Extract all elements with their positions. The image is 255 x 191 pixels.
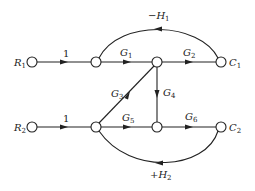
label-r1: R1 (13, 57, 26, 70)
label-c2: C2 (229, 122, 241, 135)
label-g5: G5 (122, 112, 134, 125)
label-h2: +H2 (150, 169, 172, 182)
label-r2: R2 (13, 122, 26, 135)
edge-g6 (162, 125, 216, 130)
label-gain-1-bottom: 1 (63, 113, 69, 124)
edge-g5 (101, 125, 152, 130)
edge-g4 (155, 67, 160, 122)
label-h1: −H1 (148, 10, 170, 23)
signal-flow-graph: R1 C1 R2 C2 1 1 G1 G2 G3 G4 G5 G6 −H1 +H… (0, 0, 255, 191)
edge-g1 (101, 60, 152, 65)
node-r1 (27, 57, 37, 67)
label-gain-1-top: 1 (63, 48, 69, 59)
label-g1: G1 (120, 47, 132, 60)
node-c1 (216, 57, 226, 67)
edge-r1-n2 (37, 60, 91, 65)
node-r2 (27, 122, 37, 132)
edge-h1-feedback (99, 27, 218, 59)
label-g3: G3 (111, 88, 123, 101)
node-c2 (216, 122, 226, 132)
label-c1: C1 (229, 57, 241, 70)
edge-h2-feedback (99, 131, 218, 166)
label-g6: G6 (185, 111, 198, 124)
label-g4: G4 (163, 87, 176, 100)
node-2 (91, 57, 101, 67)
edge-g2 (162, 60, 216, 65)
node-3 (152, 57, 162, 67)
label-g2: G2 (183, 47, 195, 60)
edge-r2-n6 (37, 125, 91, 130)
node-6 (91, 122, 101, 132)
node-7 (152, 122, 162, 132)
